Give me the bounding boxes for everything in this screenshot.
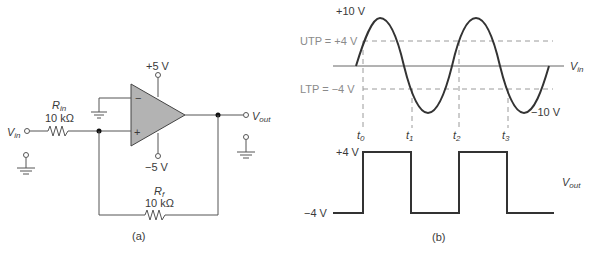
vin-label: Vin [7,126,21,140]
caption-b: (b) [432,231,445,243]
vin-axis-label: Vin [570,60,584,74]
vin-terminal [25,129,30,134]
pos-supply-label: +5 V [146,60,170,72]
feedback-wire-left [99,131,145,215]
ltp-label: LTP = −4 V [300,83,355,95]
figure-canvas: − + +5 V −5 V Vin Rin 10 kΩ [0,0,592,255]
vout-label: Vout [252,110,271,124]
rin-label: Rin [52,99,67,113]
inverting-input-sign: − [135,92,141,104]
rf-resistor-icon [145,210,165,220]
pos-supply-terminal [156,73,161,78]
neg-supply-terminal [156,154,161,159]
ground-icon [91,112,107,118]
t2-label: t2 [453,129,461,143]
t1-label: t1 [406,129,414,143]
vout-square-wave [333,152,554,213]
noninverting-input-sign: + [134,126,140,138]
ground-icon [17,168,35,174]
t0-label: t0 [357,129,365,143]
utp-label: UTP = +4 V [300,35,358,47]
rin-value: 10 kΩ [45,112,74,124]
rf-value: 10 kΩ [145,197,174,209]
t3-label: t3 [502,129,510,143]
waveform-plot: Vin UTP = +4 V LTP = −4 V t0 t1 t2 t3 +1… [300,5,584,243]
vout-terminal [244,113,249,118]
vin-peak-label: +10 V [336,5,366,17]
vin-trough-label: −10 V [531,106,561,118]
inverting-input-wire [99,98,131,112]
rin-resistor-icon [48,126,68,136]
caption-a: (a) [132,230,145,242]
ground-icon [237,152,255,158]
vin-ground-terminal [24,153,29,158]
vout-low-label: −4 V [304,207,328,219]
schmitt-trigger-circuit: − + +5 V −5 V Vin Rin 10 kΩ [7,60,271,242]
vout-ground-terminal [244,135,249,140]
neg-supply-label: −5 V [145,161,169,173]
vout-axis-label: Vout [562,176,581,190]
vout-high-label: +4 V [336,146,360,158]
